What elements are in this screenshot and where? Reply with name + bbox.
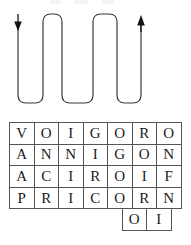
grid-cell[interactable]: O	[34, 122, 60, 145]
grid-cell-blank	[32, 208, 56, 229]
grid-cell[interactable]: C	[83, 187, 109, 210]
grid-cell-blank	[9, 208, 33, 229]
letter-grid: V O I G O R O A N N I G O N A C I R O I …	[9, 122, 182, 231]
arrow-down-icon	[14, 14, 22, 31]
grid-cell[interactable]: O	[107, 122, 133, 145]
grid-cell[interactable]: A	[9, 165, 35, 188]
grid-cell[interactable]: C	[34, 165, 60, 188]
table-row: A C I R O I F	[9, 165, 182, 188]
grid-cell[interactable]: N	[34, 144, 60, 167]
arrow-up-icon	[137, 15, 145, 32]
grid-cell[interactable]: N	[58, 144, 84, 167]
grid-cell[interactable]: G	[83, 122, 109, 145]
grid-cell-blank	[54, 208, 78, 229]
grid-cell[interactable]: N	[156, 187, 182, 210]
grid-cell[interactable]: R	[83, 165, 109, 188]
grid-cell[interactable]: I	[58, 165, 84, 188]
grid-cell[interactable]: I	[58, 122, 84, 145]
grid-cell[interactable]: R	[132, 187, 158, 210]
grid-cell[interactable]: N	[156, 144, 182, 167]
grid-cell[interactable]: O	[122, 208, 148, 231]
grid-cell[interactable]: R	[34, 187, 60, 210]
table-row: A N N I G O N	[9, 144, 182, 167]
grid-cell[interactable]: I	[58, 187, 84, 210]
grid-cell[interactable]: O	[107, 187, 133, 210]
grid-cell[interactable]: O	[132, 144, 158, 167]
table-row: O I	[9, 208, 182, 231]
grid-cell[interactable]: G	[107, 144, 133, 167]
grid-cell[interactable]: R	[132, 122, 158, 145]
table-row: V O I G O R O	[9, 122, 182, 145]
grid-cell[interactable]: I	[146, 208, 172, 231]
grid-cell[interactable]: I	[132, 165, 158, 188]
grid-cell-blank	[99, 208, 123, 229]
table-row: P R I C O R N	[9, 187, 182, 210]
grid-cell[interactable]: O	[156, 122, 182, 145]
serpentine-reading-path	[0, 0, 191, 118]
grid-cell[interactable]: A	[9, 144, 35, 167]
grid-cell[interactable]: F	[156, 165, 182, 188]
grid-cell-blank	[77, 208, 101, 229]
grid-cell[interactable]: O	[107, 165, 133, 188]
grid-cell[interactable]: P	[9, 187, 35, 210]
grid-cell[interactable]: V	[9, 122, 35, 145]
snake-path-line	[18, 14, 141, 103]
grid-cell[interactable]: I	[83, 144, 109, 167]
